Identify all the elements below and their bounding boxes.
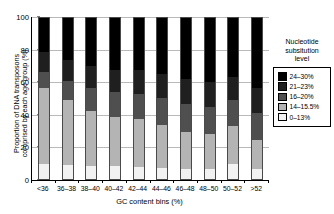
stacked-bar[interactable]	[38, 17, 50, 180]
stacked-bar[interactable]	[109, 17, 121, 180]
x-axis-tick-labels: <3636–3838–4040–4242–4444–4646–4848–5050…	[31, 185, 268, 197]
y-tick-label: 0	[25, 176, 29, 185]
bar-segment	[252, 18, 262, 88]
stacked-bar[interactable]	[227, 17, 239, 180]
stacked-bar[interactable]	[133, 17, 145, 180]
bar-segment	[252, 140, 262, 170]
bar-segment	[86, 88, 96, 111]
bar-slot	[174, 17, 198, 180]
y-tick-label: 100	[16, 13, 29, 22]
bar-segment	[86, 66, 96, 88]
bar-segment	[157, 98, 167, 125]
legend-label: 14–15.5%	[290, 103, 320, 110]
x-tick-label: 38–40	[78, 185, 102, 197]
bar-segment	[252, 169, 262, 179]
x-tick-mark	[197, 180, 198, 183]
bar-segment	[110, 18, 120, 70]
bar-segment	[134, 167, 144, 179]
x-axis-title: GC content bins (%)	[31, 197, 268, 206]
stacked-bar[interactable]	[251, 17, 263, 180]
bar-segment	[86, 166, 96, 179]
y-tick-label: 40	[21, 110, 29, 119]
x-tick-mark	[102, 180, 103, 183]
x-tick-mark	[221, 180, 222, 183]
bar-segment	[39, 52, 49, 72]
bar-segment	[110, 166, 120, 179]
y-tick-label: 80	[21, 45, 29, 54]
x-tick-mark	[78, 180, 79, 183]
bar-segment	[86, 111, 96, 166]
bar-segment	[63, 18, 73, 60]
bar-segment	[63, 81, 73, 100]
x-tick-label: 46–48	[173, 185, 197, 197]
stacked-bar[interactable]	[180, 17, 192, 180]
bar-segment	[252, 113, 262, 140]
bar-segment	[181, 79, 191, 104]
legend-item[interactable]: 0–13%	[278, 113, 327, 122]
bar-segment	[205, 18, 215, 82]
bar-segment	[181, 18, 191, 79]
bar-segment	[252, 88, 262, 113]
x-tick-mark	[268, 180, 269, 183]
legend-swatch	[278, 72, 287, 81]
x-tick-label: 50–52	[221, 185, 245, 197]
legend-swatch	[278, 103, 287, 112]
x-tick-mark	[126, 180, 127, 183]
bar-segment	[134, 18, 144, 70]
bar-segment	[228, 126, 238, 165]
bar-segment	[39, 164, 49, 179]
bar-segment	[181, 104, 191, 132]
stacked-bar[interactable]	[156, 17, 168, 180]
bar-segment	[39, 72, 49, 88]
bar-slot	[222, 17, 246, 180]
bar-segment	[205, 169, 215, 179]
bar-slot	[127, 17, 151, 180]
bar-segment	[39, 88, 49, 164]
bar-segment	[228, 18, 238, 77]
bar-segment	[228, 77, 238, 100]
legend-item[interactable]: 16–20%	[278, 93, 327, 102]
legend-box: 24–30%21–23%16–20%14–15.5%0–13%	[273, 67, 331, 127]
x-tick-mark	[55, 180, 56, 183]
bar-segment	[181, 169, 191, 179]
stacked-bar[interactable]	[62, 17, 74, 180]
legend-swatch	[278, 82, 287, 91]
legend-item[interactable]: 14–15.5%	[278, 103, 327, 112]
x-tick-label: 48–50	[197, 185, 221, 197]
bar-slot	[198, 17, 222, 180]
legend-item[interactable]: 21–23%	[278, 82, 327, 91]
bar-segment	[205, 107, 215, 134]
bar-slot	[56, 17, 80, 180]
bar-segment	[205, 134, 215, 169]
bar-slot	[32, 17, 56, 180]
stacked-bar[interactable]	[204, 17, 216, 180]
bar-segment	[110, 92, 120, 117]
bar-segment	[157, 125, 167, 168]
x-axis-ticks	[31, 180, 268, 184]
bar-slot	[103, 17, 127, 180]
bar-segment	[86, 18, 96, 66]
bar-slot	[79, 17, 103, 180]
bar-segment	[157, 18, 167, 74]
bar-segment	[228, 164, 238, 178]
x-tick-mark	[244, 180, 245, 183]
x-tick-label: 40–42	[102, 185, 126, 197]
bar-segment	[157, 74, 167, 98]
bar-segment	[134, 94, 144, 120]
legend-title: Nucleotide subsitution level	[273, 38, 331, 64]
legend-label: 16–20%	[290, 93, 314, 100]
bar-segment	[110, 117, 120, 166]
legend-item[interactable]: 24–30%	[278, 72, 327, 81]
x-tick-mark	[173, 180, 174, 183]
x-tick-label: 36–38	[55, 185, 79, 197]
bar-segment	[63, 100, 73, 165]
stacked-bar[interactable]	[85, 17, 97, 180]
y-axis-ticks: 020406080100	[9, 14, 29, 182]
bar-segment	[134, 119, 144, 166]
legend: Nucleotide subsitution level 24–30%21–23…	[273, 38, 331, 127]
bar-group-container	[32, 17, 269, 180]
bar-segment	[205, 82, 215, 107]
y-tick-label: 20	[21, 143, 29, 152]
bar-segment	[63, 165, 73, 179]
bar-segment	[110, 70, 120, 93]
